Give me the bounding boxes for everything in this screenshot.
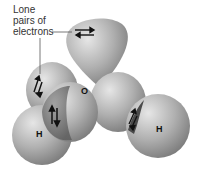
hydrogen-left-label: H	[36, 129, 43, 139]
callout-line-1: Lone	[13, 4, 54, 15]
callout-line-3: electrons	[13, 26, 54, 37]
callout-label-lone-pairs: Lone pairs of electrons	[13, 4, 54, 37]
hydrogen-right-label: H	[156, 124, 163, 134]
oxygen-label: O	[81, 86, 88, 96]
callout-line-2: pairs of	[13, 15, 54, 26]
